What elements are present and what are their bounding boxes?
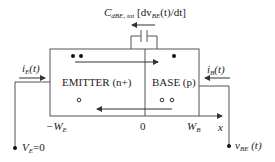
hole-dot xyxy=(77,98,81,102)
emitter-terminal xyxy=(13,146,17,150)
capacitor-icon xyxy=(131,30,157,49)
emitter-label: EMITTER (n+) xyxy=(62,77,131,88)
base-terminal xyxy=(227,144,231,148)
electron-dot xyxy=(71,54,75,58)
bjt-diagram xyxy=(0,0,275,162)
emitter-lead xyxy=(15,82,50,148)
electron-dot xyxy=(172,54,176,58)
axis-right-label: WB xyxy=(187,121,200,134)
electron-dot xyxy=(79,54,83,58)
axis-left-label: −WE xyxy=(46,121,67,134)
capacitor-label: CdBE, tot [dvBE(t)/dt] xyxy=(104,7,186,20)
axis-x-label: x xyxy=(218,122,223,133)
vbe-label: vBE (t) xyxy=(235,140,262,153)
ie-label: iE(t) xyxy=(22,63,40,76)
axis-zero-label: 0 xyxy=(140,121,146,132)
hole-dot xyxy=(170,98,174,102)
ve-label: VE=0 xyxy=(22,142,45,155)
hole-dot xyxy=(160,98,164,102)
ib-label: iB(t) xyxy=(207,64,225,77)
base-label: BASE (p) xyxy=(152,77,196,88)
